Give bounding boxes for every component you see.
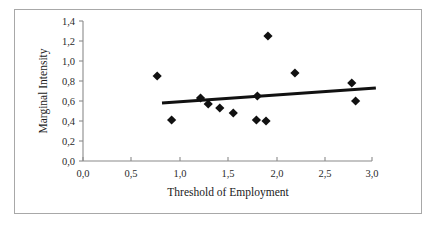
data-point-group — [153, 31, 361, 125]
y-tick-label: 0,4 — [62, 116, 76, 127]
y-tick-marks — [79, 21, 83, 161]
data-point-marker — [261, 116, 270, 125]
trend-line — [162, 88, 376, 103]
data-point-marker — [229, 108, 238, 117]
data-point-marker — [263, 31, 272, 40]
data-point-marker — [167, 115, 176, 124]
y-axis-title: Marginal Intensity — [37, 48, 50, 133]
chart-figure: 1,4 1,2 1,0 0,8 0,6 0,4 0,2 0,0 0,0 0,5 … — [0, 0, 438, 240]
data-point-marker — [153, 71, 162, 80]
data-point-marker — [351, 96, 360, 105]
data-point-marker — [347, 78, 356, 87]
y-tick-label: 0,0 — [62, 156, 75, 167]
data-point-marker — [253, 91, 262, 100]
data-point-marker — [290, 68, 299, 77]
x-tick-label: 0,0 — [76, 168, 89, 179]
x-tick-label: 2,0 — [270, 168, 283, 179]
x-tick-label: 3,0 — [365, 168, 378, 179]
y-tick-label: 0,8 — [62, 76, 75, 87]
x-axis-title: Threshold of Employment — [167, 186, 289, 199]
y-tick-label: 0,2 — [62, 136, 75, 147]
data-point-marker — [252, 115, 261, 124]
y-tick-label: 1,0 — [62, 56, 75, 67]
x-tick-label: 2,5 — [318, 168, 331, 179]
x-tick-marks — [83, 157, 372, 161]
x-tick-label: 0,5 — [124, 168, 137, 179]
scatter-plot: 1,4 1,2 1,0 0,8 0,6 0,4 0,2 0,0 0,0 0,5 … — [0, 0, 438, 240]
y-tick-label: 1,2 — [62, 36, 75, 47]
data-point-marker — [215, 103, 224, 112]
y-tick-label: 0,6 — [62, 96, 75, 107]
x-tick-label: 1,5 — [221, 168, 234, 179]
y-tick-label: 1,4 — [62, 16, 76, 27]
x-tick-label: 1,0 — [173, 168, 186, 179]
